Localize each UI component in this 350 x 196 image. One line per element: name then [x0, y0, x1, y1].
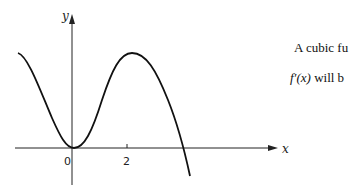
text-line-1: A cubic fu — [294, 40, 348, 56]
origin-label: 0 — [64, 155, 71, 168]
function-curve — [18, 53, 190, 176]
x-axis-label: x — [282, 142, 289, 156]
text-line-2: f′(x) will b — [290, 70, 344, 86]
text-line-2-rest: will b — [311, 70, 344, 85]
x-tick-label-2: 2 — [123, 155, 130, 168]
x-axis-arrow-icon — [268, 145, 278, 151]
cubic-graph: y x 0 2 — [0, 0, 350, 196]
y-axis-arrow-icon — [69, 14, 75, 24]
y-axis-label: y — [61, 9, 69, 23]
derivative-expression: f′(x) — [290, 70, 311, 85]
